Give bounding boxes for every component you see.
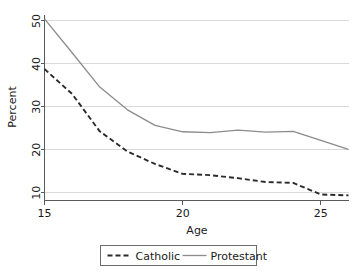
x-axis-title: Age: [186, 224, 208, 237]
axis-lines: [45, 15, 349, 201]
x-tick-label-25: 25: [314, 207, 328, 220]
y-tick-label-30: 30: [31, 100, 44, 114]
chart-legend: CatholicProtestant: [101, 246, 268, 266]
x-tick-label-20: 20: [176, 207, 190, 220]
x-tick-label-15: 15: [38, 207, 52, 220]
y-axis-title: Percent: [6, 86, 19, 128]
y-tick-label-50: 50: [31, 14, 44, 28]
y-axis-ticks: 1020304050: [30, 14, 44, 200]
legend-label-catholic: Catholic: [136, 250, 181, 263]
legend-label-protestant: Protestant: [211, 250, 268, 263]
x-axis-ticks: 152025: [38, 201, 328, 220]
line-chart: 1020304050 152025 Percent Age CatholicPr…: [0, 0, 356, 273]
chart-figure: 1020304050 152025 Percent Age CatholicPr…: [0, 0, 356, 273]
y-tick-label-20: 20: [31, 143, 44, 157]
y-tick-label-40: 40: [30, 57, 43, 71]
gridlines: [45, 21, 349, 193]
series-line-protestant: [45, 19, 349, 150]
y-tick-label-10: 10: [31, 186, 44, 200]
